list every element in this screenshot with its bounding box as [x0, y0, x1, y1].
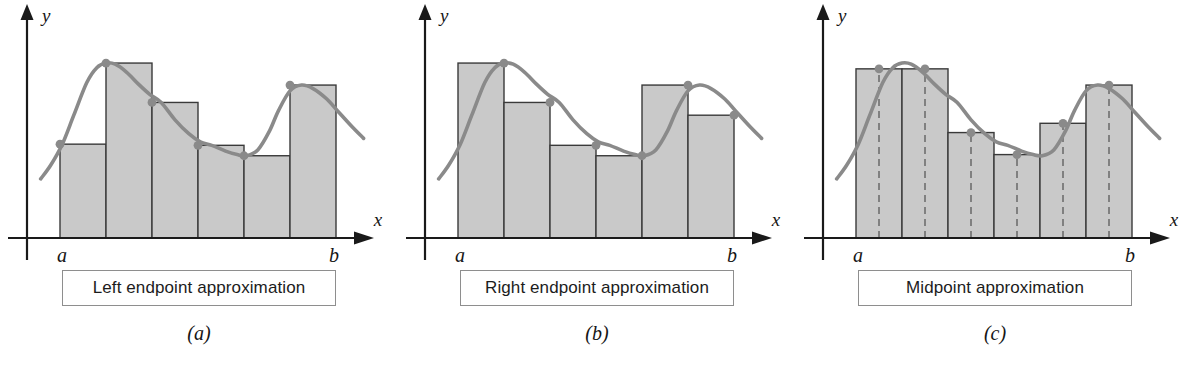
riemann-plot-c: yxab [796, 0, 1194, 268]
sample-point-dot [194, 141, 203, 150]
y-axis-label: y [836, 5, 847, 26]
y-axis-label: y [438, 5, 449, 26]
y-axis-label: y [40, 5, 51, 26]
bar [244, 156, 290, 238]
sample-point-dot [148, 98, 157, 107]
sample-point-dot [730, 111, 739, 120]
sample-point-dot [102, 59, 111, 68]
sample-point-dot [1105, 81, 1114, 90]
caption-box-a: Left endpoint approximation [62, 270, 336, 306]
sample-point-dot [1059, 119, 1068, 128]
tick-label-a: a [853, 244, 863, 266]
bars-group [60, 63, 336, 238]
y-axis-arrowhead [21, 4, 34, 20]
riemann-sum-figure: yxabLeft endpoint approximation(a)yxabRi… [0, 0, 1195, 376]
sample-point-dot [56, 140, 65, 149]
bar [642, 85, 688, 238]
x-axis-arrowhead [1150, 232, 1170, 245]
sample-point-dot [921, 64, 930, 73]
riemann-plot-b: yxab [398, 0, 796, 268]
sample-point-dot [684, 81, 693, 90]
tick-label-a: a [57, 244, 67, 266]
x-axis-arrowhead [752, 232, 772, 245]
sample-point-dot [592, 141, 601, 150]
sample-point-dot [500, 59, 509, 68]
panel-letter-c: (c) [796, 322, 1194, 345]
x-axis-label: x [373, 209, 383, 230]
caption-box-c: Midpoint approximation [858, 270, 1132, 306]
x-axis-label: x [771, 209, 781, 230]
bars-group [458, 63, 734, 238]
panel-b: yxabRight endpoint approximation(b) [398, 0, 796, 376]
bar [198, 145, 244, 238]
tick-label-b: b [1125, 244, 1135, 266]
caption-text: Left endpoint approximation [93, 278, 306, 298]
tick-label-b: b [329, 244, 339, 266]
sample-point-dot [875, 64, 884, 73]
bar [290, 85, 336, 238]
y-axis-arrowhead [817, 4, 830, 20]
tick-label-a: a [455, 244, 465, 266]
panel-letter-b: (b) [398, 322, 796, 345]
sample-point-dot [1013, 150, 1022, 159]
caption-text: Right endpoint approximation [485, 278, 709, 298]
panel-c: yxabMidpoint approximation(c) [796, 0, 1194, 376]
sample-point-dot [286, 81, 295, 90]
bar [60, 144, 106, 238]
bar [596, 156, 642, 238]
panel-a: yxabLeft endpoint approximation(a) [0, 0, 398, 376]
caption-text: Midpoint approximation [906, 278, 1084, 298]
tick-label-b: b [727, 244, 737, 266]
sample-point-dot [967, 128, 976, 137]
bar [504, 102, 550, 238]
x-axis-arrowhead [354, 232, 374, 245]
sample-point-dot [638, 151, 647, 160]
bar [152, 102, 198, 238]
bars-group [856, 69, 1132, 238]
y-axis-arrowhead [419, 4, 432, 20]
panel-letter-a: (a) [0, 322, 398, 345]
bar [688, 115, 734, 238]
bar [550, 145, 596, 238]
caption-box-b: Right endpoint approximation [460, 270, 734, 306]
sample-point-dot [240, 151, 249, 160]
x-axis-label: x [1169, 209, 1179, 230]
sample-point-dot [546, 98, 555, 107]
riemann-plot-a: yxab [0, 0, 398, 268]
